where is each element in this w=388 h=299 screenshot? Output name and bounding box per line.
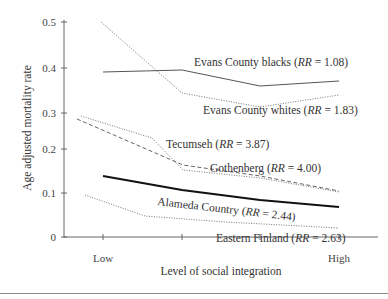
bottom-divider <box>0 293 388 294</box>
label-tecumseh: Tecumseh (RR = 3.87) <box>166 138 270 151</box>
y-axis-title: Age adjusted mortality rate <box>21 65 34 191</box>
mortality-chart: 0 0.1 0.2 0.3 0.4 0.5 Low High Level of … <box>0 0 388 299</box>
y-tick-0.5: 0.5 <box>42 16 56 28</box>
x-axis-title: Level of social integration <box>160 265 281 278</box>
y-axis <box>61 20 67 238</box>
label-eastern-finland: Eastern Finland (RR = 2.63) <box>216 232 346 245</box>
series-gothenberg <box>77 119 339 191</box>
x-tick-high: High <box>328 252 351 264</box>
label-gothenberg: Gothenberg (RR = 4.00) <box>210 162 321 175</box>
y-tick-0.4: 0.4 <box>42 62 56 74</box>
y-tick-0: 0 <box>51 231 57 243</box>
label-alameda-country: Alameda Country (RR = 2.44) <box>157 195 297 224</box>
series-tecumseh <box>81 116 339 192</box>
label-evans-county-blacks: Evans County blacks (RR = 1.08) <box>194 56 348 69</box>
label-evans-county-whites: Evans County whites (RR = 1.83) <box>203 104 358 117</box>
y-tick-0.1: 0.1 <box>42 187 56 199</box>
x-tick-low: Low <box>93 252 113 264</box>
y-tick-0.3: 0.3 <box>42 107 56 119</box>
series-evans-county-blacks <box>103 70 339 86</box>
y-tick-0.2: 0.2 <box>42 143 56 155</box>
